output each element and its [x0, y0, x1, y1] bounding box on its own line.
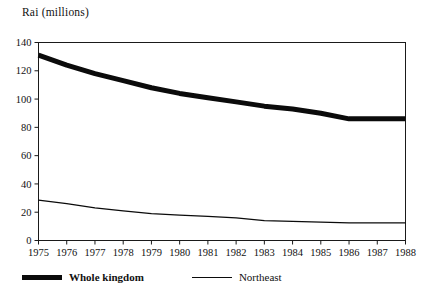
y-axis-tick-label: 60	[21, 150, 32, 161]
legend-label-northeast: Northeast	[239, 271, 282, 283]
x-axis-tick-labels: 1975197619771978197919801981198219831984…	[28, 247, 416, 258]
x-axis-tick-label: 1985	[310, 247, 331, 258]
series-line-whole-kingdom	[39, 55, 406, 119]
y-axis-tick-label: 0	[26, 235, 31, 246]
y-axis-tick-label: 140	[16, 37, 32, 48]
chart-plot-area: 020406080100120140 197519761977197819791…	[0, 0, 431, 302]
y-axis-tick-label: 80	[21, 122, 32, 133]
legend-item-northeast: Northeast	[192, 271, 282, 283]
legend-swatch-thin-line-icon	[192, 277, 232, 278]
x-axis-tick-label: 1978	[113, 247, 134, 258]
chart-series	[39, 55, 406, 223]
y-axis-tick-label: 100	[16, 94, 32, 105]
y-axis-tick-labels: 020406080100120140	[16, 37, 32, 246]
y-axis-tick-label: 40	[21, 179, 32, 190]
x-axis-tick-label: 1976	[56, 247, 77, 258]
x-axis-tick-label: 1982	[226, 247, 247, 258]
y-axis-tick-label: 120	[16, 65, 32, 76]
chart-legend: Whole kingdom Northeast	[22, 271, 282, 283]
legend-item-whole-kingdom: Whole kingdom	[22, 271, 144, 283]
x-axis-tick-label: 1984	[282, 247, 304, 258]
x-axis-tick-label: 1987	[367, 247, 388, 258]
y-axis-tick-label: 20	[21, 207, 32, 218]
x-axis-tick-label: 1986	[339, 247, 360, 258]
chart-container: Rai (millions) 020406080100120140 197519…	[0, 0, 431, 302]
legend-swatch-thick-line-icon	[22, 275, 62, 280]
x-axis-tick-label: 1977	[84, 247, 105, 258]
x-axis-tick-label: 1975	[28, 247, 49, 258]
x-axis-tick-label: 1981	[197, 247, 218, 258]
series-line-northeast	[39, 200, 406, 223]
x-axis-tick-label: 1980	[169, 247, 190, 258]
x-axis-tick-label: 1983	[254, 247, 275, 258]
x-axis-tick-label: 1979	[141, 247, 162, 258]
x-axis-tick-label: 1988	[395, 247, 416, 258]
legend-label-whole-kingdom: Whole kingdom	[69, 271, 144, 283]
